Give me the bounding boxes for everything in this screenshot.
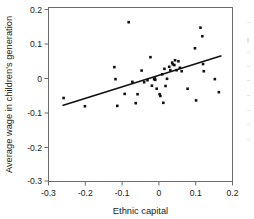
scatter-point bbox=[164, 85, 167, 88]
scatter-point bbox=[163, 68, 166, 71]
scatter-point bbox=[161, 73, 164, 76]
y-tick-label: -0.2 bbox=[27, 143, 42, 153]
scatter-point bbox=[218, 91, 221, 94]
y-axis-ticks bbox=[45, 10, 49, 182]
scatter-point bbox=[154, 79, 157, 82]
scan-edge-artifacts bbox=[247, 22, 250, 140]
scatter-point bbox=[140, 69, 143, 72]
scatter-point bbox=[169, 69, 172, 72]
scatter-point bbox=[194, 47, 197, 50]
x-tick-label: -0.2 bbox=[78, 188, 93, 198]
scatter-plot-figure: 0.2 0.1 0 -0.1 -0.2 -0.3 -0.3 -0.2 -0.1 … bbox=[0, 0, 254, 219]
scatter-point bbox=[159, 95, 162, 98]
scatter-point bbox=[214, 78, 217, 81]
scatter-point bbox=[146, 79, 149, 82]
scatter-point bbox=[175, 69, 178, 72]
y-tick-label: 0.2 bbox=[30, 5, 42, 15]
scatter-point bbox=[114, 78, 117, 81]
y-tick-label: 0.1 bbox=[30, 39, 42, 49]
scatter-point bbox=[162, 102, 165, 105]
scatter-point bbox=[202, 63, 205, 66]
x-tick-label: -0.1 bbox=[115, 188, 130, 198]
scatter-point bbox=[113, 66, 116, 69]
fit-line-segment bbox=[62, 56, 221, 106]
scatter-point bbox=[195, 99, 198, 102]
x-tick-label: 0 bbox=[157, 188, 162, 198]
regression-line bbox=[62, 56, 221, 106]
x-axis-title: Ethnic capital bbox=[113, 206, 168, 216]
scatter-point bbox=[177, 60, 180, 63]
scatter-point bbox=[174, 59, 177, 62]
scatter-point bbox=[62, 97, 65, 100]
scatter-point bbox=[186, 87, 189, 90]
scatter-point bbox=[168, 65, 171, 68]
x-tick-label: 0.1 bbox=[190, 188, 202, 198]
scatter-point bbox=[143, 81, 146, 84]
scatter-point bbox=[134, 102, 137, 105]
x-tick-label: -0.3 bbox=[41, 188, 56, 198]
scatter-point bbox=[151, 84, 154, 87]
x-axis-ticks bbox=[49, 182, 233, 186]
scatter-point bbox=[116, 105, 119, 108]
y-tick-label: 0 bbox=[37, 74, 42, 84]
scatter-point bbox=[127, 21, 130, 24]
x-tick-labels: -0.3 -0.2 -0.1 0 0.1 0.2 bbox=[41, 188, 239, 198]
scatter-point bbox=[123, 93, 126, 96]
scatter-point bbox=[199, 26, 202, 29]
y-tick-label: -0.1 bbox=[27, 108, 42, 118]
scatter-point bbox=[201, 35, 204, 38]
x-tick-label: 0.2 bbox=[227, 188, 239, 198]
y-tick-label: -0.3 bbox=[27, 176, 42, 186]
y-tick-labels: 0.2 0.1 0 -0.1 -0.2 -0.3 bbox=[27, 5, 42, 187]
plot-canvas: 0.2 0.1 0 -0.1 -0.2 -0.3 -0.3 -0.2 -0.1 … bbox=[0, 0, 254, 219]
scatter-point bbox=[131, 81, 134, 84]
plot-frame bbox=[49, 8, 233, 182]
scatter-point bbox=[136, 93, 139, 96]
scatter-point bbox=[84, 105, 87, 108]
scatter-point bbox=[180, 70, 183, 73]
scatter-point bbox=[166, 77, 169, 80]
scatter-point bbox=[173, 64, 176, 67]
scatter-point bbox=[149, 56, 152, 59]
scatter-point bbox=[155, 87, 158, 90]
y-axis-title: Average wage in children's generation bbox=[4, 16, 14, 173]
scatter-point bbox=[203, 70, 206, 73]
scatter-point bbox=[179, 67, 182, 70]
